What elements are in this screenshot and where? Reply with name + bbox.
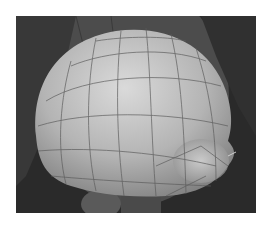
helmet-render bbox=[16, 16, 256, 213]
render-viewport bbox=[16, 16, 256, 213]
